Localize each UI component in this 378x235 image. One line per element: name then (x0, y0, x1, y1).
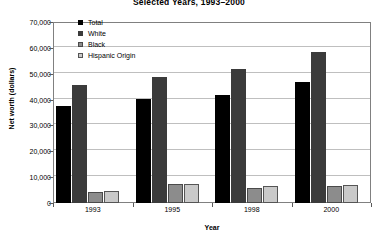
legend-swatch-icon (78, 31, 83, 36)
legend-label: Hispanic Origin (88, 52, 135, 59)
bar (247, 188, 262, 203)
bar (72, 85, 87, 203)
bar (343, 185, 358, 203)
chart-title: Selected Years, 1993–2000 (0, 0, 378, 7)
bar (152, 77, 167, 203)
legend-item: White (78, 28, 135, 39)
legend-item: Hispanic Origin (78, 50, 135, 61)
bar (104, 191, 119, 203)
x-tick-label: 1998 (212, 206, 292, 213)
x-axis-label: Year (53, 224, 371, 231)
x-tick-label: 1993 (53, 206, 133, 213)
bar (136, 99, 151, 203)
x-tick-mark (133, 203, 134, 207)
y-tick-label: 30,000 (5, 122, 51, 129)
x-tick-label: 1995 (132, 206, 212, 213)
bar (295, 82, 310, 203)
legend-label: White (88, 30, 106, 37)
legend-swatch-icon (78, 20, 83, 25)
y-tick-label: 20,000 (5, 148, 51, 155)
legend-label: Total (88, 19, 103, 26)
chart-figure: Selected Years, 1993–2000 Net worth (dol… (0, 0, 378, 235)
bar (88, 192, 103, 203)
x-tick-mark (292, 203, 293, 207)
bar (184, 184, 199, 203)
y-tick-label: 50,000 (5, 70, 51, 77)
legend-item: Total (78, 17, 135, 28)
x-tick-mark (371, 203, 372, 207)
y-tick-label: 70,000 (5, 19, 51, 26)
chart-legend: TotalWhiteBlackHispanic Origin (78, 17, 135, 61)
x-tick-mark (53, 203, 54, 207)
bar (263, 186, 278, 203)
y-tick-label: 0 (5, 200, 51, 207)
bar-group (212, 22, 292, 203)
y-tick-label: 40,000 (5, 96, 51, 103)
bar (231, 69, 246, 203)
x-tick-label: 2000 (291, 206, 371, 213)
bar (311, 52, 326, 203)
legend-item: Black (78, 39, 135, 50)
bar-group (133, 22, 213, 203)
bar (168, 184, 183, 203)
y-tick-label: 60,000 (5, 44, 51, 51)
legend-label: Black (88, 41, 105, 48)
legend-swatch-icon (78, 42, 83, 47)
bar (215, 95, 230, 203)
bar (56, 106, 71, 203)
bar (327, 186, 342, 203)
y-tick-label: 10,000 (5, 174, 51, 181)
legend-swatch-icon (78, 53, 83, 58)
x-tick-mark (212, 203, 213, 207)
bar-group (292, 22, 372, 203)
